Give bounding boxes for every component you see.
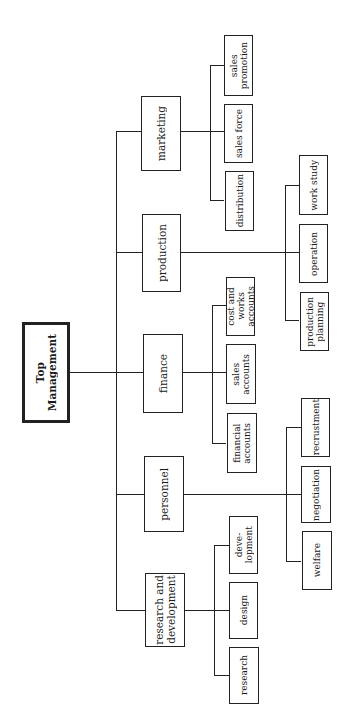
work-study-box: work study: [299, 155, 328, 215]
welfare-label: welfare: [312, 543, 322, 577]
finance-box: finance: [143, 334, 183, 413]
personnel-sub-stem: [184, 494, 301, 495]
marketing-label: marketing: [155, 106, 167, 161]
sales-accounts-label: sales accounts: [231, 354, 251, 395]
personnel-sub-tick: [286, 427, 301, 428]
rnd-sub-stem: [185, 610, 229, 611]
negotiation-box: negotiation: [301, 466, 331, 523]
finance-connector: [116, 372, 143, 373]
top-management-box: Top Management: [22, 322, 70, 423]
research-box: research: [229, 647, 259, 704]
development-label: deve- lopment: [234, 526, 254, 563]
operation-label: operation: [309, 232, 319, 276]
production-planning-box: production planning: [300, 292, 329, 351]
personnel-connector: [116, 494, 144, 495]
personnel-sub-bracket: [286, 427, 287, 561]
rnd-sub-bracket: [214, 545, 215, 675]
personnel-box: personnel: [144, 456, 184, 532]
finance-label: finance: [157, 354, 169, 393]
marketing-box: marketing: [141, 96, 181, 171]
design-label: design: [239, 595, 249, 625]
production-label: production: [156, 224, 168, 282]
cost-works-accounts-label: cost and works accounts: [226, 286, 256, 327]
rnd-label: research and development: [153, 575, 177, 645]
sales-promotion-box: sales promotion: [224, 35, 253, 96]
marketing-sub-bracket: [210, 65, 211, 200]
sales-accounts-box: sales accounts: [226, 344, 256, 404]
production-sub-stem: [181, 252, 299, 253]
negotiation-label: negotiation: [311, 469, 321, 521]
marketing-sub-stem: [181, 131, 224, 132]
org-chart: Top Management marketing production fina…: [0, 0, 354, 721]
rnd-connector: [116, 610, 145, 611]
cost-works-accounts-box: cost and works accounts: [226, 277, 255, 336]
root-connector: [70, 372, 116, 373]
rnd-sub-tick: [214, 675, 229, 676]
welfare-box: welfare: [302, 531, 332, 590]
personnel-label: personnel: [158, 468, 170, 521]
finance-sub-stem: [183, 372, 226, 373]
work-study-label: work study: [309, 160, 319, 211]
design-box: design: [229, 582, 258, 639]
financial-accounts-box: financial accounts: [227, 413, 257, 473]
sales-force-box: sales force: [224, 104, 253, 163]
production-sub-tick: [285, 185, 299, 186]
financial-accounts-label: financial accounts: [232, 423, 252, 464]
distribution-label: distribution: [235, 174, 245, 227]
rnd-box: research and development: [145, 573, 185, 647]
production-sub-bracket: [285, 185, 286, 320]
sales-force-label: sales force: [234, 109, 244, 158]
sales-promotion-label: sales promotion: [229, 42, 249, 89]
recruitment-box: recrustment: [301, 398, 330, 457]
top-management-label: Top Management: [34, 334, 58, 411]
marketing-sub-tick: [210, 65, 224, 66]
recruitment-label: recrustment: [311, 399, 321, 455]
rnd-sub-tick: [214, 545, 229, 546]
marketing-connector: [116, 131, 141, 132]
research-label: research: [239, 655, 249, 695]
development-box: deve- lopment: [229, 516, 258, 574]
finance-sub-tick: [212, 305, 226, 306]
finance-sub-bracket: [212, 305, 213, 443]
production-box: production: [142, 214, 181, 292]
marketing-sub-tick: [210, 200, 224, 201]
department-trunk-line: [116, 131, 117, 610]
production-sub-tick: [285, 320, 299, 321]
production-planning-label: production planning: [305, 297, 325, 347]
personnel-sub-tick: [286, 561, 301, 562]
operation-box: operation: [299, 224, 328, 283]
finance-sub-tick: [212, 443, 226, 444]
distribution-box: distribution: [225, 171, 254, 231]
production-connector: [116, 252, 142, 253]
